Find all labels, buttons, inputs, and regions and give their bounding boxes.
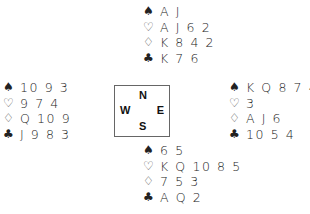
compass-east: E (157, 104, 164, 116)
compass-box: N W E S (114, 85, 170, 137)
cards: 10 5 4 (246, 127, 295, 143)
heart-icon: ♡ (143, 159, 156, 175)
cards: J 9 8 3 (20, 127, 71, 143)
west-clubs: ♣J 9 8 3 (3, 127, 71, 143)
diamond-icon: ♢ (143, 35, 156, 51)
diamond-icon: ♢ (3, 111, 16, 127)
club-icon: ♣ (3, 127, 16, 143)
south-clubs: ♣A Q 2 (143, 190, 242, 206)
heart-icon: ♡ (143, 20, 156, 36)
club-icon: ♣ (143, 190, 156, 206)
club-icon: ♣ (229, 127, 242, 143)
south-hearts: ♡K Q 10 8 5 (143, 159, 242, 175)
diamond-icon: ♢ (143, 174, 156, 190)
west-hand: ♠10 9 3 ♡9 7 4 ♢Q 10 9 ♣J 9 8 3 (3, 80, 71, 142)
cards: K Q 8 7 4 2 (246, 80, 310, 96)
cards: K Q 10 8 5 (160, 159, 242, 175)
cards: 7 5 3 (160, 174, 200, 190)
cards: 9 7 4 (20, 96, 60, 112)
east-spades: ♠K Q 8 7 4 2 (229, 80, 310, 96)
cards: K 8 4 2 (160, 35, 215, 51)
east-clubs: ♣10 5 4 (229, 127, 310, 143)
cards: 6 5 (160, 143, 185, 159)
cards: 10 9 3 (20, 80, 69, 96)
heart-icon: ♡ (229, 96, 242, 112)
club-icon: ♣ (143, 51, 156, 67)
cards: A J 6 2 (160, 20, 211, 36)
compass-south: S (139, 120, 146, 132)
north-diamonds: ♢K 8 4 2 (143, 35, 215, 51)
compass-west: W (120, 104, 130, 116)
cards: A J (160, 4, 181, 20)
spade-icon: ♠ (3, 80, 16, 96)
cards: A Q 2 (160, 190, 202, 206)
north-hearts: ♡A J 6 2 (143, 20, 215, 36)
west-diamonds: ♢Q 10 9 (3, 111, 71, 127)
heart-icon: ♡ (3, 96, 16, 112)
south-diamonds: ♢7 5 3 (143, 174, 242, 190)
compass-north: N (139, 89, 147, 101)
cards: 3 (246, 96, 256, 112)
spade-icon: ♠ (143, 143, 156, 159)
east-diamonds: ♢A J 6 (229, 111, 310, 127)
east-hand: ♠K Q 8 7 4 2 ♡3 ♢A J 6 ♣10 5 4 (229, 80, 310, 142)
north-spades: ♠A J (143, 4, 215, 20)
south-hand: ♠6 5 ♡K Q 10 8 5 ♢7 5 3 ♣A Q 2 (143, 143, 242, 205)
cards: K 7 6 (160, 51, 200, 67)
spade-icon: ♠ (143, 4, 156, 20)
cards: Q 10 9 (20, 111, 71, 127)
east-hearts: ♡3 (229, 96, 310, 112)
west-spades: ♠10 9 3 (3, 80, 71, 96)
diamond-icon: ♢ (229, 111, 242, 127)
south-spades: ♠6 5 (143, 143, 242, 159)
west-hearts: ♡9 7 4 (3, 96, 71, 112)
cards: A J 6 (246, 111, 282, 127)
spade-icon: ♠ (229, 80, 242, 96)
north-hand: ♠A J ♡A J 6 2 ♢K 8 4 2 ♣K 7 6 (143, 4, 215, 66)
north-clubs: ♣K 7 6 (143, 51, 215, 67)
